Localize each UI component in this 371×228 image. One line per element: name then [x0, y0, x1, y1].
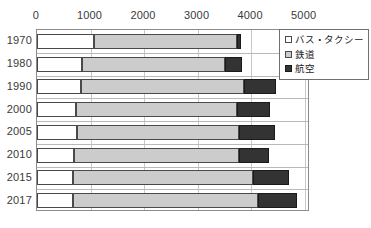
bar-row: [37, 79, 308, 94]
bar-segment-rail-2015: [73, 170, 253, 185]
x-tick-2000: 2000: [130, 9, 155, 21]
legend-item-bus: バス・タクシー: [285, 35, 364, 45]
legend-item-air: 航空: [285, 64, 364, 74]
bar-segment-rail-2017: [73, 193, 258, 208]
bar-segment-bus-2017: [37, 193, 73, 208]
bar-segment-bus-2000: [37, 102, 76, 117]
bar-row: [37, 125, 308, 140]
bar-row: [37, 193, 308, 208]
stacked-bar-chart: 010002000300040005000 197019801990200020…: [0, 0, 371, 228]
legend-swatch-rail-icon: [285, 51, 292, 58]
bar-row: [37, 34, 308, 49]
category-label-1980: 1980: [0, 57, 32, 69]
bar-segment-rail-2005: [77, 125, 239, 140]
category-label-2017: 2017: [0, 194, 32, 206]
legend-label: 鉄道: [295, 50, 315, 60]
bar-segment-rail-1980: [82, 57, 225, 72]
bar-segment-air-1970: [237, 34, 241, 49]
row-separator: [37, 76, 308, 77]
category-label-1990: 1990: [0, 80, 32, 92]
bar-segment-bus-2015: [37, 170, 73, 185]
plot-area: [36, 29, 309, 211]
bar-segment-rail-2010: [74, 148, 239, 163]
x-tick-5000: 5000: [291, 9, 316, 21]
row-separator: [37, 53, 308, 54]
bar-segment-air-2010: [239, 148, 269, 163]
bar-row: [37, 102, 308, 117]
category-label-2000: 2000: [0, 103, 32, 115]
category-label-1970: 1970: [0, 34, 32, 46]
chart-legend: バス・タクシー鉄道航空: [279, 29, 369, 80]
legend-label: バス・タクシー: [295, 35, 364, 45]
bar-segment-bus-1990: [37, 79, 81, 94]
category-label-2015: 2015: [0, 171, 32, 183]
row-separator: [37, 144, 308, 145]
bar-segment-rail-1990: [81, 79, 244, 94]
x-tick-1000: 1000: [77, 9, 102, 21]
bar-segment-bus-2010: [37, 148, 74, 163]
x-tick-4000: 4000: [237, 9, 262, 21]
bar-segment-air-2005: [239, 125, 275, 140]
bar-segment-rail-2000: [76, 102, 237, 117]
legend-swatch-air-icon: [285, 65, 292, 72]
bar-row: [37, 170, 308, 185]
category-label-2005: 2005: [0, 125, 32, 137]
legend-item-rail: 鉄道: [285, 50, 364, 60]
category-label-2010: 2010: [0, 148, 32, 160]
bar-segment-air-1990: [244, 79, 276, 94]
bar-row: [37, 57, 308, 72]
bar-segment-air-2015: [253, 170, 289, 185]
bar-row: [37, 148, 308, 163]
row-separator: [37, 167, 308, 168]
bar-segment-air-2017: [258, 193, 297, 208]
bar-segment-bus-2005: [37, 125, 77, 140]
row-separator: [37, 121, 308, 122]
bar-segment-bus-1980: [37, 57, 82, 72]
x-tick-3000: 3000: [184, 9, 209, 21]
x-tick-0: 0: [33, 9, 39, 21]
legend-swatch-bus-icon: [285, 36, 292, 43]
row-separator: [37, 98, 308, 99]
bar-segment-bus-1970: [37, 34, 94, 49]
row-separator: [37, 189, 308, 190]
legend-label: 航空: [295, 64, 315, 74]
bar-segment-rail-1970: [94, 34, 237, 49]
bar-segment-air-1980: [225, 57, 242, 72]
bar-segment-air-2000: [237, 102, 270, 117]
